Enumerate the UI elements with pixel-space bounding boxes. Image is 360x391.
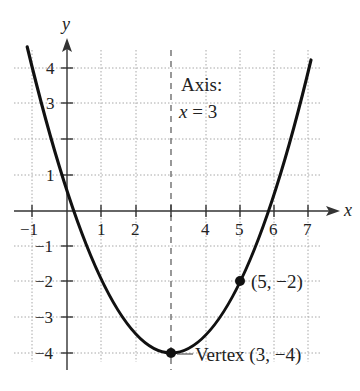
parabola-curve [27,47,311,353]
y-tick-label: −4 [35,344,54,363]
parabola-chart: y x −1 1 2 4 5 6 7 4 3 1 −1 −2 −3 −4 Axi… [0,0,360,391]
axis-annotation-line1: Axis: [181,74,222,95]
y-tick-label: −2 [35,272,53,291]
axis-annotation-equation: = 3 [187,101,217,122]
point-label: (5, −2) [251,271,303,293]
y-tick-label: 1 [46,166,55,185]
x-tick-label: 6 [269,220,278,239]
axis-annotation-line2: x = 3 [178,101,217,122]
x-tick-label: 1 [97,220,106,239]
x-tick-label: 7 [303,220,312,239]
vertex-point [166,348,176,358]
x-axis-label: x [343,200,352,220]
y-tick-label: 4 [46,59,55,78]
x-axis [14,205,330,217]
x-tick-label: 2 [131,220,140,239]
x-tick-label: 5 [235,220,244,239]
grid [14,50,322,362]
y-tick-label: −1 [35,237,53,256]
y-axis-label: y [60,14,70,34]
y-tick-label: −3 [35,308,53,327]
y-tick-label: 3 [46,94,55,113]
point-5-neg2 [235,276,245,286]
vertex-label: Vertex (3, −4) [195,344,301,366]
x-tick-label: 4 [201,220,210,239]
